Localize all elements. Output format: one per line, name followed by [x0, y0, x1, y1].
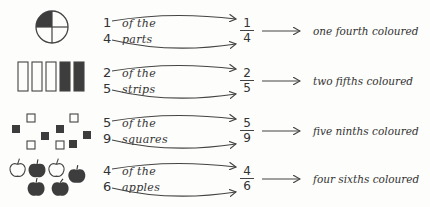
denominator-arrow: [112, 140, 236, 148]
numerator-arrow: [112, 65, 236, 71]
numerator-arrow: [112, 163, 236, 169]
numerator-arrow: [112, 15, 236, 21]
denominator-arrow: [112, 90, 236, 98]
denominator-arrow: [112, 188, 236, 196]
denominator-arrow: [112, 40, 236, 48]
numerator-arrow: [112, 115, 236, 121]
arrows-layer: [0, 0, 430, 207]
